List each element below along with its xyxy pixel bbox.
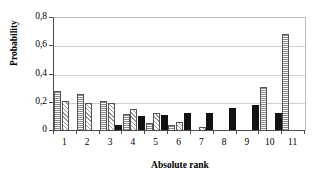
- y-tick-mark: [49, 17, 53, 18]
- x-tick-mark: [99, 130, 100, 134]
- x-tick-label: 7: [189, 137, 213, 148]
- bar: [206, 113, 213, 131]
- bar: [100, 101, 107, 131]
- bar: [138, 116, 145, 131]
- bar: [275, 113, 282, 131]
- bar: [153, 113, 160, 131]
- x-tick-mark: [121, 130, 122, 134]
- y-tick-label: 0: [17, 125, 47, 134]
- bars-layer: [54, 18, 305, 131]
- x-tick-mark: [167, 130, 168, 134]
- x-tick-label: 11: [281, 137, 305, 148]
- y-tick-label: 0,6: [17, 40, 47, 49]
- x-tick-mark: [304, 130, 305, 134]
- x-tick-label: 10: [258, 137, 282, 148]
- x-tick-label: 2: [75, 137, 99, 148]
- bar: [130, 109, 137, 131]
- bar: [229, 108, 236, 131]
- x-tick-label: 8: [212, 137, 236, 148]
- x-axis-title: Absolute rank: [50, 160, 310, 170]
- x-tick-mark: [144, 130, 145, 134]
- x-axis-line: [53, 130, 305, 131]
- bar: [85, 103, 92, 131]
- x-tick-mark: [213, 130, 214, 134]
- bar: [184, 113, 191, 131]
- bar: [252, 105, 259, 131]
- x-tick-mark: [236, 130, 237, 134]
- y-tick-mark: [49, 74, 53, 75]
- bar: [108, 103, 115, 131]
- y-tick-label: 0,4: [17, 69, 47, 78]
- y-tick-mark: [49, 102, 53, 103]
- y-tick-mark: [49, 45, 53, 46]
- x-tick-mark: [76, 130, 77, 134]
- x-tick-label: 1: [52, 137, 76, 148]
- x-tick-label: 6: [167, 137, 191, 148]
- x-tick-label: 3: [98, 137, 122, 148]
- bar: [260, 87, 267, 131]
- bar: [161, 115, 168, 131]
- bar: [282, 34, 289, 131]
- x-tick-mark: [190, 130, 191, 134]
- bar: [123, 114, 130, 131]
- plot-area: [53, 17, 306, 131]
- bar: [77, 94, 84, 131]
- bar-chart: Probability 0,80,60,40,20 1234567891011 …: [0, 0, 315, 181]
- y-tick-label: 0,8: [17, 12, 47, 21]
- y-tick-label: 0,2: [17, 97, 47, 106]
- x-tick-label: 5: [144, 137, 168, 148]
- x-tick-mark: [53, 130, 54, 134]
- x-tick-mark: [258, 130, 259, 134]
- x-tick-label: 9: [235, 137, 259, 148]
- x-tick-label: 4: [121, 137, 145, 148]
- bar: [54, 91, 61, 131]
- x-tick-mark: [281, 130, 282, 134]
- bar: [62, 101, 69, 131]
